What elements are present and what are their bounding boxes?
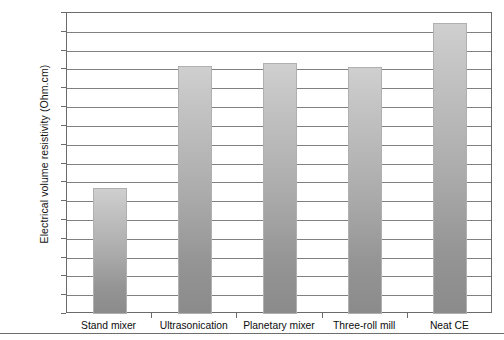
bar	[348, 67, 382, 314]
x-axis-category-label: Planetary mixer	[236, 320, 321, 332]
x-axis-tick-mark	[236, 313, 237, 318]
x-axis-category-label: Ultrasonication	[151, 320, 236, 332]
x-axis-tick-mark	[407, 313, 408, 318]
plot-area	[66, 12, 492, 313]
bar	[178, 66, 212, 314]
y-axis-title: Electrical volume resistivity (Ohm.cm)	[38, 14, 50, 294]
x-axis-tick-mark	[151, 313, 152, 318]
gridline	[67, 51, 491, 52]
gridline	[67, 32, 491, 33]
x-axis-tick-mark	[322, 313, 323, 318]
bar	[93, 188, 127, 314]
chart-figure: Electrical volume resistivity (Ohm.cm) 1…	[0, 0, 504, 340]
bar	[433, 23, 467, 314]
bar	[263, 63, 297, 314]
y-axis-tick-mark	[61, 313, 66, 314]
x-axis-category-label: Three-roll mill	[322, 320, 407, 332]
x-axis-category-label: Stand mixer	[66, 320, 151, 332]
figure-bottom-rule	[0, 333, 504, 334]
x-axis-category-label: Neat CE	[407, 320, 492, 332]
